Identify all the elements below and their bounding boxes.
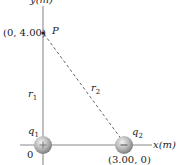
q1-label: q1 bbox=[28, 126, 39, 139]
point-label: P bbox=[52, 26, 59, 36]
diagram-canvas bbox=[0, 0, 177, 165]
q2-coords: (3.00, 0) bbox=[108, 155, 151, 165]
origin-label: 0 bbox=[27, 150, 33, 160]
r2-dashed-line bbox=[44, 34, 122, 140]
r2-label: r2 bbox=[91, 83, 100, 96]
y-axis-label: y(m) bbox=[30, 0, 53, 5]
point-coords: (0, 4.00) bbox=[3, 28, 46, 38]
r1-label: r1 bbox=[28, 89, 37, 102]
x-axis-label: x(m) bbox=[153, 140, 176, 150]
q2-label: q2 bbox=[132, 127, 143, 140]
